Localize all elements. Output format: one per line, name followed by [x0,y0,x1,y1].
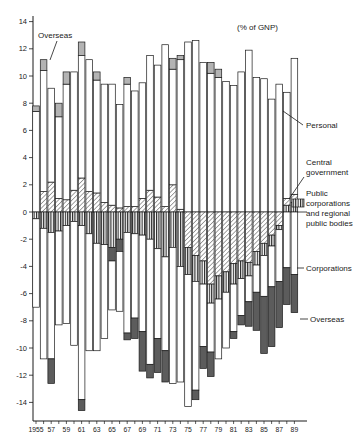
x-tick-label: 85 [260,426,268,433]
bar-1974 [177,56,184,382]
leader-overseas-top [50,41,57,60]
bar-1962 [86,60,93,351]
segment-overseas [63,72,70,84]
segment-public_corporations-deficit [223,272,230,292]
segment-overseas-deficit [48,359,55,383]
segment-central_government [94,193,101,212]
segment-corporations-deficit [200,284,207,347]
y-tick-label: 12 [19,44,27,53]
segment-personal [223,81,230,212]
y-tick-label: 10 [19,72,27,81]
bar-1959 [63,72,70,324]
segment-central_government [170,185,177,212]
segment-overseas-deficit [139,332,146,371]
label-central-government: government [306,168,349,177]
segment-public_corporations-deficit [109,212,116,247]
segment-overseas [208,62,215,73]
x-tick-label: 79 [215,426,223,433]
bar-1972 [162,45,169,382]
segment-overseas-deficit [116,239,123,251]
segment-personal [170,69,177,185]
segment-personal [276,84,283,212]
segment-corporations-deficit [185,275,192,407]
y-tick-label: 6 [23,126,27,135]
segment-corporations-deficit [154,249,161,339]
segment-overseas-deficit [162,351,169,382]
y-tick-label: 8 [23,99,27,108]
segment-central_government [284,198,291,205]
y-tick-label: -10 [16,344,27,353]
segment-overseas-deficit [200,347,207,369]
segment-public_corporations-deficit [215,276,222,299]
bar-1971 [154,65,161,372]
segment-public_corporations-deficit [162,212,169,257]
segment-public_corporations-deficit [246,262,253,276]
segment-overseas-deficit [109,247,116,261]
segment-overseas-deficit [276,281,283,327]
segment-public_corporations-deficit [177,212,184,266]
segment-public_corporations-deficit [63,212,70,226]
bar-1979 [215,69,222,359]
bar-1970 [147,56,154,378]
bar-1964 [101,84,108,338]
segment-central_government [116,208,123,212]
y-tick-label: -2 [20,235,27,244]
x-tick-label: 87 [275,426,283,433]
segment-overseas-deficit [147,364,154,378]
segment-personal [139,83,146,199]
segment-corporations-deficit [109,261,116,310]
segment-corporations-deficit [238,279,245,316]
x-tick-label: 61 [78,426,86,433]
segment-central_government-deficit [215,212,222,276]
segment-overseas-deficit [253,292,260,330]
bar-1981 [230,86,237,339]
segment-corporations-deficit [40,228,47,359]
segment-overseas-deficit [154,338,161,372]
y-tick-label: -4 [20,262,27,271]
segment-public_corporations-deficit [132,212,139,234]
segment-central_government [147,190,154,212]
segment-corporations-deficit [192,281,199,390]
segment-public_corporations-deficit [147,212,154,239]
segment-overseas-deficit [238,315,245,325]
bar-1980 [223,81,230,348]
x-tick-label: 63 [93,426,101,433]
segment-personal [109,84,116,205]
segment-corporations-deficit [56,231,63,325]
bar-1960 [71,72,78,345]
y-tick-label: 0 [23,208,27,217]
segment-personal [124,84,131,206]
segment-central_government-deficit [261,212,268,243]
segment-corporations-deficit [268,246,275,287]
bar-1955 [33,106,40,307]
segment-overseas [170,58,177,69]
segment-personal [63,84,70,200]
y-tick-label: 14 [19,17,27,26]
segment-personal [162,45,169,207]
segment-public_corporations-deficit [268,235,275,246]
segment-central_government-deficit [208,212,215,284]
segment-corporations-deficit [230,284,237,332]
x-tick-label: 59 [63,426,71,433]
x-tick-label: 69 [139,426,147,433]
label-central-government: Central [306,158,332,167]
segment-central_government [78,178,85,212]
segment-public_corporations-deficit [253,251,260,265]
label-unit-gnp: (% of GNP) [237,23,278,32]
segment-central_government [86,192,93,212]
bar-1983 [246,50,253,326]
x-tick-label: 67 [123,426,131,433]
y-tick-label: -14 [16,398,27,407]
segment-corporations-deficit [78,226,85,400]
x-tick-label: 71 [154,426,162,433]
segment-corporations-deficit [276,230,283,282]
segment-personal [48,88,55,182]
segment-public_corporations [284,205,291,212]
segment-overseas-deficit [246,302,253,326]
segment-central_government-deficit [200,212,207,261]
segment-overseas [40,60,47,71]
segment-public_corporations-deficit [71,212,78,222]
segment-public_corporations-deficit [78,212,85,226]
segment-central_government [124,207,131,212]
segment-overseas-deficit [291,275,298,313]
